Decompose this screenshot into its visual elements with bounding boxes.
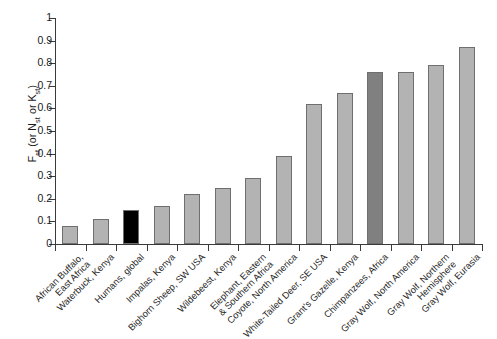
x-axis-tick-mark <box>86 245 87 251</box>
x-axis-tick-mark <box>299 245 300 251</box>
bar <box>215 188 231 245</box>
y-axis-tick-label: 1 <box>46 11 52 23</box>
bar <box>367 72 383 244</box>
y-axis-tick-label: 0.7 <box>37 79 52 91</box>
bar <box>428 65 444 244</box>
y-axis-tick-label: 0.5 <box>37 124 52 136</box>
x-axis-tick-mark <box>177 245 178 251</box>
y-axis-tick-label: 0.8 <box>37 56 52 68</box>
x-axis-tick-mark <box>360 245 361 251</box>
y-axis-tick-label: 0.3 <box>37 169 52 181</box>
y-axis-tick-label: 0.6 <box>37 101 52 113</box>
y-axis-tick-label: 0.4 <box>37 147 52 159</box>
bar <box>306 104 322 244</box>
bar <box>93 219 109 244</box>
y-axis-line <box>55 18 56 245</box>
bar <box>398 72 414 244</box>
x-axis-tick-mark <box>116 245 117 251</box>
bar <box>154 206 170 244</box>
bar <box>62 226 78 244</box>
x-axis-tick-mark <box>452 245 453 251</box>
bar <box>276 156 292 244</box>
x-axis-tick-mark <box>482 245 483 251</box>
x-axis-tick-mark <box>421 245 422 251</box>
x-axis-tick-mark <box>269 245 270 251</box>
bar <box>184 194 200 244</box>
bar <box>245 178 261 244</box>
y-axis-tick-label: 0.9 <box>37 34 52 46</box>
y-axis-tick-label: 0 <box>46 237 52 249</box>
y-axis-tick-label: 0.2 <box>37 192 52 204</box>
x-axis-tick-mark <box>330 245 331 251</box>
x-axis-tick-mark <box>391 245 392 251</box>
x-axis-category-labels: African Buffalo, East AfricaWaterbuck, K… <box>55 252 497 339</box>
bar-chart: Fst (or Nst or Kst) 00.10.20.30.40.50.60… <box>0 0 497 339</box>
plot-area: 00.10.20.30.40.50.60.70.80.91 <box>55 18 482 244</box>
x-axis-tick-mark <box>238 245 239 251</box>
x-axis-tick-mark <box>147 245 148 251</box>
x-axis-tick-mark <box>55 245 56 251</box>
x-axis-tick-mark <box>208 245 209 251</box>
bar <box>337 93 353 244</box>
y-axis-tick-label: 0.1 <box>37 214 52 226</box>
bar <box>459 47 475 244</box>
bar <box>123 210 139 244</box>
